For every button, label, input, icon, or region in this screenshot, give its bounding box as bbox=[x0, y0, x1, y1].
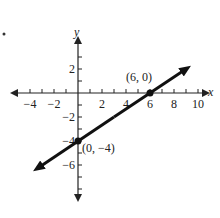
coordinate-plane: x −4 −2 2 4 6 8 10 y 2 −2 −4 −6 bbox=[0, 0, 220, 218]
y-axis-label: y bbox=[73, 25, 80, 39]
x-tick-label: −2 bbox=[48, 97, 61, 111]
point-label-y-intercept: (0, −4) bbox=[82, 141, 115, 155]
y-axis: y 2 −2 −4 −6 bbox=[62, 25, 82, 198]
point-label-x-intercept: (6, 0) bbox=[126, 70, 152, 84]
x-tick-label: −4 bbox=[24, 97, 37, 111]
x-tick-label: 6 bbox=[147, 97, 153, 111]
x-tick-label: 8 bbox=[171, 97, 177, 111]
point-y-intercept bbox=[75, 138, 82, 145]
y-tick-label: −2 bbox=[62, 110, 75, 124]
x-axis: x −4 −2 2 4 6 8 10 bbox=[14, 85, 214, 111]
point-x-intercept bbox=[147, 90, 154, 97]
x-tick-label: 10 bbox=[192, 97, 204, 111]
stray-dot bbox=[3, 33, 6, 36]
y-tick-label: −6 bbox=[62, 158, 75, 172]
x-axis-label: x bbox=[207, 85, 214, 99]
x-tick-label: 2 bbox=[99, 97, 105, 111]
y-tick-label: 2 bbox=[69, 62, 75, 76]
